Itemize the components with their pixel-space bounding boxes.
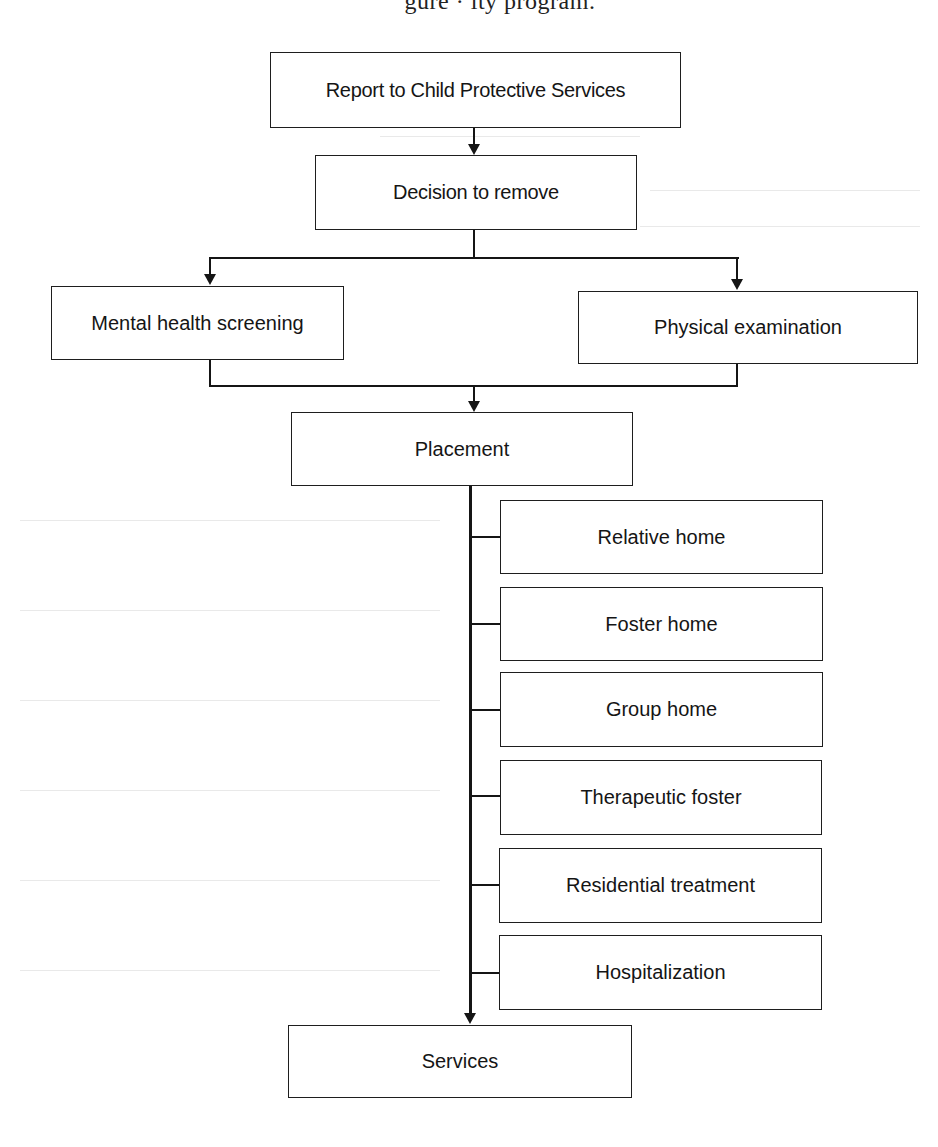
scan-noise bbox=[380, 136, 640, 137]
connector-line bbox=[736, 257, 738, 279]
arrow-down-icon bbox=[731, 279, 743, 290]
node-mental-health-screening: Mental health screening bbox=[51, 286, 344, 360]
arrow-down-icon bbox=[204, 274, 216, 285]
scan-noise bbox=[640, 226, 920, 227]
scan-noise bbox=[20, 880, 440, 881]
node-label: Therapeutic foster bbox=[580, 786, 741, 809]
scan-noise bbox=[20, 790, 440, 791]
node-group-home: Group home bbox=[500, 672, 823, 747]
node-label: Group home bbox=[606, 698, 717, 721]
node-placement: Placement bbox=[291, 412, 633, 486]
node-label: Services bbox=[422, 1050, 499, 1073]
arrow-down-icon bbox=[464, 1013, 476, 1024]
node-hospitalization: Hospitalization bbox=[499, 935, 822, 1010]
connector-trunk bbox=[469, 486, 472, 1014]
node-label: Mental health screening bbox=[91, 312, 303, 335]
connector-line bbox=[473, 128, 475, 145]
node-foster-home: Foster home bbox=[500, 587, 823, 661]
connector-branch bbox=[470, 623, 500, 625]
node-label: Report to Child Protective Services bbox=[326, 79, 626, 102]
node-relative-home: Relative home bbox=[500, 500, 823, 574]
node-label: Foster home bbox=[605, 613, 717, 636]
node-label: Relative home bbox=[598, 526, 726, 549]
node-therapeutic-foster: Therapeutic foster bbox=[500, 760, 822, 835]
scan-noise bbox=[20, 970, 440, 971]
node-label: Residential treatment bbox=[566, 874, 755, 897]
scan-noise bbox=[20, 520, 440, 521]
arrow-down-icon bbox=[468, 144, 480, 155]
connector-branch bbox=[470, 972, 500, 974]
node-label: Placement bbox=[415, 438, 510, 461]
connector-line bbox=[209, 360, 211, 387]
connector-branch bbox=[470, 884, 500, 886]
node-label: Physical examination bbox=[654, 316, 842, 339]
connector-branch bbox=[470, 795, 500, 797]
connector-line bbox=[209, 257, 739, 259]
node-residential-treatment: Residential treatment bbox=[499, 848, 822, 923]
node-physical-examination: Physical examination bbox=[578, 291, 918, 364]
connector-branch bbox=[470, 709, 500, 711]
connector-line bbox=[473, 230, 475, 259]
connector-line bbox=[473, 386, 475, 402]
figure-caption-fragment: gure · ity program. bbox=[260, 0, 740, 15]
node-report-to-cps: Report to Child Protective Services bbox=[270, 52, 681, 128]
scan-noise bbox=[20, 700, 440, 701]
connector-line bbox=[736, 364, 738, 387]
node-label: Decision to remove bbox=[393, 181, 559, 204]
node-services: Services bbox=[288, 1025, 632, 1098]
connector-line bbox=[209, 257, 211, 275]
connector-branch bbox=[470, 536, 500, 538]
arrow-down-icon bbox=[468, 401, 480, 412]
node-label: Hospitalization bbox=[595, 961, 725, 984]
scan-noise bbox=[650, 190, 920, 191]
node-decision-to-remove: Decision to remove bbox=[315, 155, 637, 230]
scan-noise bbox=[20, 610, 440, 611]
